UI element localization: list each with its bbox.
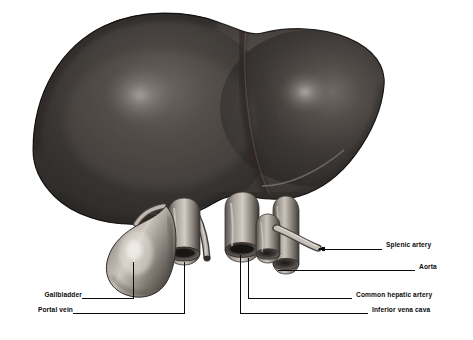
common-hepatic-artery-vessel <box>256 214 280 263</box>
liver-illustration <box>0 0 473 340</box>
leader-inferior-vena-cava <box>240 255 368 313</box>
liver-anatomy-figure: Gallbladder Portal vein Splenic artery A… <box>0 0 473 340</box>
label-splenic-artery: Splenic artery <box>386 241 431 249</box>
label-common-hepatic-artery: Common hepatic artery <box>356 291 432 299</box>
label-portal-vein: Portal vein <box>18 306 73 314</box>
liver-body <box>20 5 400 235</box>
inferior-vena-cava-vessel <box>225 192 259 262</box>
label-inferior-vena-cava: Inferior vena cava <box>372 306 430 314</box>
label-gallbladder: Gallbladder <box>18 291 82 299</box>
leader-common-hepatic-artery <box>248 258 352 298</box>
label-aorta: Aorta <box>419 263 437 271</box>
